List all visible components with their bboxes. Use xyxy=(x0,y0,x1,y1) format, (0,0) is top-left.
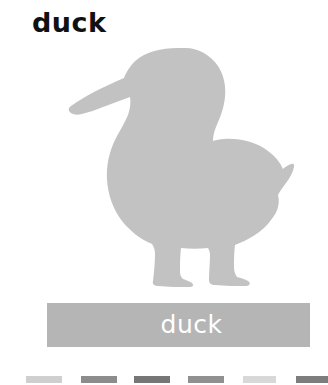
label-text: duck xyxy=(135,310,223,340)
swatch-3 xyxy=(134,376,170,383)
swatch-2 xyxy=(81,376,117,383)
color-swatch-row xyxy=(0,376,328,385)
swatch-6 xyxy=(296,376,328,383)
label-bar: duck xyxy=(47,303,310,347)
swatch-4 xyxy=(188,376,224,383)
flashcard: duck duck xyxy=(0,0,328,385)
swatch-5 xyxy=(243,376,276,383)
duck-silhouette-icon xyxy=(62,42,294,287)
duck-body-path xyxy=(69,48,294,287)
duck-illustration xyxy=(62,42,294,287)
swatch-1 xyxy=(26,376,62,383)
page-title: duck xyxy=(32,7,107,39)
